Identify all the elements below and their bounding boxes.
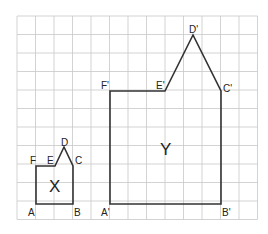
label-c: C: [75, 155, 82, 166]
label-e: E: [47, 155, 54, 166]
label-f-prime: F': [101, 80, 109, 91]
label-e-prime: E': [156, 80, 165, 91]
label-b-prime: B': [222, 207, 231, 218]
shape-y-outline: [110, 35, 221, 204]
label-c-prime: C': [223, 83, 232, 94]
label-y-center: Y: [160, 140, 171, 159]
label-x-center: X: [49, 177, 60, 196]
label-b: B: [74, 207, 81, 218]
label-a-prime: A': [101, 207, 110, 218]
label-d: D: [61, 137, 68, 148]
label-a: A: [28, 207, 35, 218]
label-d-prime: D': [189, 24, 198, 35]
grid-diagram: A B C D E F X A' B' C' D' E' F' Y: [0, 0, 268, 234]
label-f: F: [30, 155, 36, 166]
